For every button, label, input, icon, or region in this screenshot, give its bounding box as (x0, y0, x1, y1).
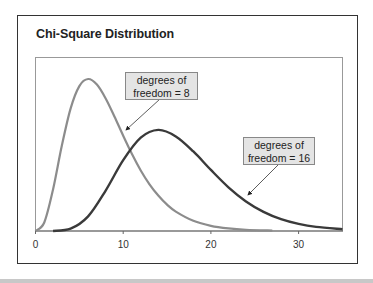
callout-df16-line2: freedom = 16 (244, 152, 314, 165)
x-tick-label: 30 (293, 239, 305, 250)
callout-df16: degrees of freedom = 16 (243, 137, 315, 165)
callout-df8-line1: degrees of (126, 74, 197, 87)
curve-df8 (36, 79, 273, 231)
x-tick-label: 0 (33, 239, 39, 250)
x-tick-label: 10 (118, 239, 130, 250)
plot-area: 0102030 (0, 0, 373, 283)
callout-arrow-df16 (248, 164, 279, 195)
x-ticks: 0102030 (33, 231, 305, 250)
callout-arrow-df8 (126, 99, 160, 130)
x-tick-label: 20 (205, 239, 217, 250)
callout-df8-line2: freedom = 8 (126, 87, 197, 100)
callout-df16-line1: degrees of (244, 139, 314, 152)
callout-df8: degrees of freedom = 8 (125, 72, 198, 100)
bottom-divider (0, 279, 373, 283)
